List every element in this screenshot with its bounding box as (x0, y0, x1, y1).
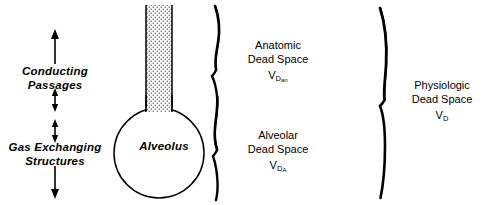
alveolar-dead-space-symbol: VDA (228, 158, 328, 174)
down-arrow-bottom (51, 166, 59, 199)
airway-sac-junction (146, 95, 172, 112)
wavy-brace-outer (372, 6, 394, 200)
gas-exchanging-line1: Gas Exchanging (9, 141, 102, 153)
anatomic-symbol-base: V (268, 69, 275, 81)
alveolar-dead-space-label: Alveolar Dead Space VDA (228, 128, 328, 174)
physiologic-symbol-base: V (436, 109, 443, 121)
alveolar-symbol-base: V (270, 159, 277, 171)
alveolus-diagram (110, 0, 210, 205)
alveolar-dead-space-line1: Alveolar (258, 129, 298, 141)
left-arrow-group (40, 28, 70, 200)
alveolar-symbol-subsub: A (282, 167, 286, 173)
up-arrow-top (51, 29, 59, 64)
physiologic-dead-space-line2: Dead Space (412, 93, 473, 105)
conducting-passages-label: Conducting Passages (0, 64, 110, 92)
anatomic-dead-space-symbol: VDan (228, 68, 328, 84)
wavy-brace-inner (206, 4, 228, 202)
anatomic-dead-space-label: Anatomic Dead Space VDan (228, 38, 328, 84)
gas-exchanging-structures-label: Gas Exchanging Structures (0, 140, 110, 168)
gas-exchanging-line2: Structures (25, 155, 85, 167)
physiologic-symbol-sub: D (443, 114, 448, 123)
anatomic-symbol-subsub: an (281, 77, 288, 83)
anatomic-dead-space-line1: Anatomic (255, 39, 301, 51)
anatomic-dead-space-line2: Dead Space (248, 53, 309, 65)
alveolar-dead-space-line2: Dead Space (248, 143, 309, 155)
physiologic-dead-space-line1: Physiologic (414, 79, 470, 91)
conducting-passages-line1: Conducting (22, 65, 88, 77)
physiologic-dead-space-label: Physiologic Dead Space VD (392, 78, 492, 124)
alveolus-label: Alveolus (124, 140, 204, 152)
dead-space-diagram: Conducting Passages Gas Exchanging Struc… (0, 0, 492, 205)
conducting-passages-line2: Passages (28, 79, 83, 91)
physiologic-dead-space-symbol: VD (392, 108, 492, 124)
airway-tube (146, 5, 172, 108)
alveolar-sac (114, 108, 204, 198)
